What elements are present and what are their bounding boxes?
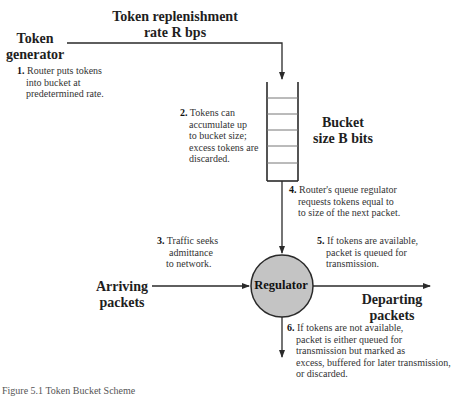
departing-packets-label: Departing packets [361,292,423,324]
note-2-number: 2. [180,107,188,118]
note-2-line: accumulate up [180,119,258,131]
note-6-line: packet is either queued for [287,334,451,346]
note-1-line: Router puts tokens [27,65,102,76]
note-6: 6. If tokens are not available, packet i… [287,322,451,380]
arriving-packets-label: Arriving packets [95,279,149,311]
note-6-line: transmission but marked as [287,345,451,357]
note-1-line: predetermined rate. [17,88,104,100]
note-2: 2. Tokens can accumulate up to bucket si… [180,107,258,165]
figure-caption: Figure 5.1 Token Bucket Scheme [2,385,135,396]
note-4-line: Router's queue regulator [299,184,397,195]
note-1-number: 1. [17,65,25,76]
note-2-line: excess tokens are [180,142,258,154]
note-4-line: to size of the next packet. [289,207,400,219]
note-6-number: 6. [287,322,295,333]
note-5-line: transmission. [317,258,418,270]
token-bucket [267,82,298,181]
bucket-size-label: Bucket size B bits [303,115,383,147]
note-6-line: If tokens are not available, [297,322,403,333]
note-4: 4. Router's queue regulator requests tok… [289,184,400,219]
token-generator-line2: generator [6,47,64,63]
note-6-line: or discarded. [287,368,451,380]
note-2-line: discarded. [180,153,258,165]
note-3-line: to network. [157,258,218,270]
note-3-line: Traffic seeks [167,235,218,246]
bucket-size-line1: Bucket [303,115,383,131]
note-6-line: excess, buffered for later transmission, [287,357,451,369]
bucket-size-line2: size B bits [303,131,383,147]
arriving-line2: packets [95,295,149,311]
note-1-line: into bucket at [17,77,104,89]
replenishment-line2: rate R bps [110,25,240,41]
note-5-line: packet is queued for [317,247,418,259]
note-2-line: Tokens can [190,107,235,118]
note-4-line: requests tokens equal to [289,196,400,208]
note-3-line: admittance [157,247,218,259]
note-2-line: to bucket size; [180,130,258,142]
regulator-label: Regulator [250,278,312,293]
replenishment-rate-label: Token replenishment rate R bps [110,9,240,41]
token-generator-label: Token generator [6,31,64,63]
replenishment-line1: Token replenishment [110,9,240,25]
note-4-number: 4. [289,184,297,195]
note-5-number: 5. [317,235,325,246]
note-3: 3. Traffic seeks admittance to network. [157,235,218,270]
departing-line1: Departing [361,292,423,308]
note-1: 1. Router puts tokens into bucket at pre… [17,65,104,100]
note-5: 5. If tokens are available, packet is qu… [317,235,418,270]
note-3-number: 3. [157,235,165,246]
note-5-line: If tokens are available, [327,235,418,246]
token-generator-line1: Token [6,31,64,47]
arriving-line1: Arriving [95,279,149,295]
